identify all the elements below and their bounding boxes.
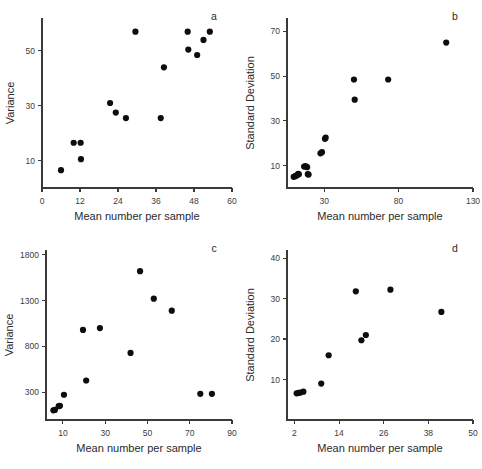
data-point xyxy=(80,327,86,333)
y-axis-title: Standard Deviation xyxy=(244,56,256,150)
x-tick-label: 90 xyxy=(227,428,237,438)
x-tick-label: 80 xyxy=(394,196,404,206)
data-point xyxy=(71,140,77,146)
x-tick-label: 70 xyxy=(185,428,195,438)
data-point xyxy=(387,287,393,293)
panel-d-svg: 21426385010203040Mean number per sampleS… xyxy=(241,234,482,469)
data-point xyxy=(318,380,324,386)
y-tick-label: 50 xyxy=(26,46,36,56)
data-point xyxy=(132,29,138,35)
data-point xyxy=(161,64,167,70)
panel-letter: d xyxy=(452,242,458,254)
x-tick-label: 60 xyxy=(227,196,237,206)
x-axis-title: Mean number per sample xyxy=(317,210,442,222)
y-tick-label: 10 xyxy=(271,375,281,385)
y-tick-label: 50 xyxy=(271,71,281,81)
data-point xyxy=(326,352,332,358)
data-point xyxy=(83,377,89,383)
data-point xyxy=(151,296,157,302)
data-point xyxy=(300,389,306,395)
data-point xyxy=(358,337,364,343)
x-tick-label: 0 xyxy=(40,196,45,206)
data-point xyxy=(197,391,203,397)
panel-a-variance-scatter: 01224364860103050Mean number per sampleV… xyxy=(0,0,241,234)
x-tick-label: 30 xyxy=(100,428,110,438)
data-point xyxy=(353,288,359,294)
panel-letter: c xyxy=(211,242,216,254)
data-point xyxy=(304,164,310,170)
x-tick-label: 14 xyxy=(334,428,344,438)
data-point xyxy=(305,171,311,177)
y-tick-label: 30 xyxy=(271,294,281,304)
data-point xyxy=(123,115,129,121)
data-point xyxy=(78,156,84,162)
x-tick-label: 10 xyxy=(58,428,68,438)
figure-container: 01224364860103050Mean number per sampleV… xyxy=(0,0,482,469)
data-point xyxy=(61,392,67,398)
data-point xyxy=(363,332,369,338)
data-point xyxy=(200,37,206,43)
y-tick-label: 1800 xyxy=(20,250,39,260)
x-tick-label: 38 xyxy=(424,428,434,438)
data-point xyxy=(438,309,444,315)
x-tick-label: 2 xyxy=(292,428,297,438)
y-tick-label: 20 xyxy=(271,334,281,344)
data-point xyxy=(58,167,64,173)
x-tick-label: 130 xyxy=(466,196,480,206)
data-point xyxy=(57,403,63,409)
panel-c-svg: 103050709030080013001800Mean number per … xyxy=(0,234,241,469)
data-point xyxy=(351,76,357,82)
data-point xyxy=(127,350,133,356)
data-point xyxy=(323,135,329,141)
x-tick-label: 50 xyxy=(468,428,478,438)
data-point xyxy=(78,140,84,146)
axis-spine xyxy=(42,18,232,188)
y-axis-title: Variance xyxy=(4,82,16,125)
data-point xyxy=(169,308,175,314)
y-tick-label: 30 xyxy=(271,116,281,126)
panel-letter: b xyxy=(452,10,458,22)
y-tick-label: 40 xyxy=(271,253,281,263)
y-axis-title: Standard Deviation xyxy=(244,288,256,382)
axis-spine xyxy=(46,250,232,420)
data-point xyxy=(207,29,213,35)
y-tick-label: 800 xyxy=(25,341,39,351)
axis-spine xyxy=(287,250,473,420)
data-point xyxy=(97,325,103,331)
data-point xyxy=(194,52,200,58)
y-tick-label: 10 xyxy=(271,161,281,171)
x-tick-label: 50 xyxy=(143,428,153,438)
y-tick-label: 10 xyxy=(26,156,36,166)
y-tick-label: 300 xyxy=(25,387,39,397)
x-axis-title: Mean number per sample xyxy=(317,442,442,454)
data-point xyxy=(385,76,391,82)
panel-a-svg: 01224364860103050Mean number per sampleV… xyxy=(0,0,241,235)
panel-b-stddev-scatter: 308013010305070Mean number per sampleSta… xyxy=(241,0,482,234)
data-point xyxy=(158,115,164,121)
data-point xyxy=(107,100,113,106)
x-axis-title: Mean number per sample xyxy=(74,210,199,222)
x-tick-label: 36 xyxy=(151,196,161,206)
y-tick-label: 30 xyxy=(26,101,36,111)
panel-d-stddev-scatter: 21426385010203040Mean number per sampleS… xyxy=(241,234,482,468)
x-tick-label: 26 xyxy=(379,428,389,438)
x-tick-label: 24 xyxy=(113,196,123,206)
data-point xyxy=(319,149,325,155)
panel-b-svg: 308013010305070Mean number per sampleSta… xyxy=(241,0,482,235)
x-tick-label: 30 xyxy=(319,196,329,206)
data-point xyxy=(209,391,215,397)
data-point xyxy=(185,29,191,35)
x-axis-title: Mean number per sample xyxy=(76,442,201,454)
panel-c-variance-scatter: 103050709030080013001800Mean number per … xyxy=(0,234,241,468)
y-tick-label: 70 xyxy=(271,26,281,36)
data-point xyxy=(137,268,143,274)
data-point xyxy=(352,97,358,103)
y-tick-label: 1300 xyxy=(20,296,39,306)
y-axis-title: Variance xyxy=(3,314,15,357)
data-point xyxy=(185,46,191,52)
panel-letter: a xyxy=(211,10,217,22)
data-point xyxy=(113,110,119,116)
x-tick-label: 48 xyxy=(189,196,199,206)
data-point xyxy=(443,40,449,46)
data-point xyxy=(296,171,302,177)
